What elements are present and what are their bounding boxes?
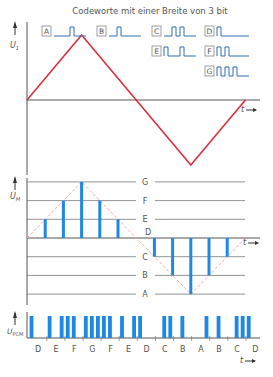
quantization-levels: GFEDCBA — [27, 178, 260, 299]
pcm-label: B — [216, 345, 222, 354]
codeword-letter: A — [44, 27, 50, 36]
pcm-bit — [90, 316, 94, 338]
codeword-G: G — [205, 66, 249, 76]
codeword-legend: ABCDEFG — [42, 26, 249, 76]
sample-bar — [153, 238, 156, 257]
level-label: C — [142, 253, 148, 262]
level-E: E — [27, 215, 245, 224]
level-G: G — [27, 178, 245, 187]
pcm-label: C — [162, 345, 168, 354]
codeword-waveform — [217, 47, 249, 56]
pcm-bit — [247, 316, 251, 338]
pcm-label: D — [252, 345, 258, 354]
mid-y-label: UM — [10, 192, 21, 202]
top-y-label: U1 — [10, 41, 19, 51]
svg-text:t: t — [243, 238, 247, 247]
pcm-y-label: UPCM — [7, 327, 23, 337]
pcm-bit — [84, 316, 88, 338]
pcm-bit — [138, 316, 142, 338]
diagram-canvas: Codeworte mit einer Breite von 3 bit U1 … — [0, 0, 273, 377]
codeword-letter: D — [207, 27, 213, 36]
pcm-label: E — [126, 345, 131, 354]
sample-bar — [226, 238, 229, 257]
level-label: D — [145, 228, 151, 237]
pcm-bit — [180, 316, 184, 338]
codeword-C: C — [152, 26, 196, 36]
pcm-bit — [96, 316, 100, 338]
sample-bar — [44, 219, 47, 238]
codeword-waveform — [109, 27, 141, 36]
pcm-bit — [72, 316, 76, 338]
svg-text:t: t — [241, 105, 245, 114]
sample-bar — [171, 238, 174, 275]
level-label: F — [143, 197, 148, 206]
codeword-waveform — [217, 27, 249, 36]
sample-bar — [117, 219, 120, 238]
codeword-letter: B — [99, 27, 104, 36]
mid-y-arrow-icon — [13, 176, 17, 190]
codeword-E: E — [152, 46, 196, 56]
codeword-waveform — [217, 67, 249, 76]
codeword-waveform — [164, 47, 196, 56]
codeword-letter: E — [154, 47, 159, 56]
pcm-bit — [102, 316, 106, 338]
pcm-panel: UPCM DEFGFEDCBABCD t — [7, 311, 260, 365]
level-B: B — [27, 271, 245, 280]
pcm-bit — [241, 316, 245, 338]
level-A: A — [27, 290, 245, 299]
pcm-bit — [60, 316, 64, 338]
top-time-label: t — [241, 105, 257, 114]
svg-text:t: t — [240, 356, 244, 365]
pcm-y-arrow-icon — [13, 311, 17, 325]
codeword-D: D — [205, 26, 249, 36]
sample-bar — [208, 238, 211, 275]
pcm-label: D — [35, 345, 41, 354]
pcm-bit — [162, 316, 166, 338]
pcm-bit — [30, 316, 34, 338]
level-label: G — [142, 178, 148, 187]
codeword-F: F — [205, 46, 249, 56]
pcm-label: D — [144, 345, 150, 354]
pcm-label: B — [180, 345, 186, 354]
pcm-label: F — [108, 345, 113, 354]
sample-bar — [62, 201, 65, 238]
codeword-A: A — [42, 26, 86, 36]
pcm-bit — [48, 316, 52, 338]
sample-bar — [189, 238, 192, 294]
mid-time-label: t — [243, 238, 259, 247]
codeword-waveform — [164, 27, 196, 36]
codeword-B: B — [97, 26, 141, 36]
pcm-diagram: Codeworte mit einer Breite von 3 bit U1 … — [0, 0, 273, 377]
pcm-bit — [235, 316, 239, 338]
sample-bar — [98, 201, 101, 238]
level-label: E — [142, 215, 147, 224]
codeword-letter: G — [207, 67, 213, 76]
level-label: B — [142, 271, 148, 280]
analog-panel: U1 t ABCDEFG — [10, 21, 260, 175]
level-C: C — [27, 253, 245, 262]
sampled-panel: UM GFEDCBA t — [10, 176, 260, 305]
pcm-bit — [132, 316, 136, 338]
pcm-codeword-labels: DEFGFEDCBABCD — [35, 345, 258, 354]
level-label: A — [142, 290, 148, 299]
diagram-title: Codeworte mit einer Breite von 3 bit — [72, 6, 228, 16]
codeword-letter: C — [154, 27, 159, 36]
pcm-label: C — [234, 345, 240, 354]
pcm-bit — [217, 316, 221, 338]
sample-bar — [80, 182, 83, 238]
top-y-arrow-icon — [13, 21, 17, 35]
pcm-label: A — [198, 345, 204, 354]
pcm-label: F — [72, 345, 77, 354]
codeword-letter: F — [207, 47, 211, 56]
pcm-bitstream — [30, 316, 251, 341]
pcm-label: E — [54, 345, 59, 354]
pcm-bit — [168, 316, 172, 338]
pcm-bit — [66, 316, 70, 338]
pcm-bit — [205, 316, 209, 338]
pcm-label: G — [89, 345, 95, 354]
pcm-bit — [108, 316, 112, 338]
pcm-bit — [120, 316, 124, 338]
pcm-time-label: t — [240, 356, 256, 365]
